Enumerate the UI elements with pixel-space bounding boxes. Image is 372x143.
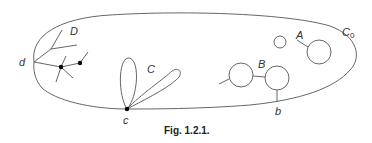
label-c0-main: C <box>342 26 350 38</box>
node-dot <box>59 65 63 69</box>
label-A: A <box>296 30 303 41</box>
label-D: D <box>70 26 78 37</box>
node-dot <box>78 61 82 65</box>
node-c <box>125 107 129 111</box>
label-C: C <box>147 64 155 75</box>
label-B: B <box>258 59 265 70</box>
diagram-canvas <box>0 0 372 143</box>
label-d: d <box>19 57 25 68</box>
graph-d <box>34 30 88 82</box>
label-b: b <box>275 106 281 117</box>
label-c0-sub: 0 <box>350 31 354 40</box>
outer-curve-c0 <box>34 13 357 109</box>
label-c: c <box>123 115 129 126</box>
label-c0: C0 <box>342 27 354 38</box>
graph-b <box>219 63 289 102</box>
figure-caption: Fig. 1.2.1. <box>164 126 210 136</box>
